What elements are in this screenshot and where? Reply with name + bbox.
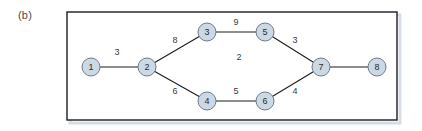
graph-node-2[interactable]: 2 xyxy=(138,58,156,76)
edge-weight-2-3: 8 xyxy=(172,35,177,45)
graph-node-4[interactable]: 4 xyxy=(198,92,216,110)
graph-node-1[interactable]: 1 xyxy=(82,58,100,76)
edge-weight-4-6: 5 xyxy=(233,86,238,96)
frame-rect xyxy=(67,12,397,120)
node-label: 1 xyxy=(88,62,93,72)
figure-frame xyxy=(67,12,397,120)
edge-weight-3-5: 9 xyxy=(233,17,238,27)
node-label: 8 xyxy=(374,62,379,72)
graph-node-8[interactable]: 8 xyxy=(368,58,386,76)
edge-weight-6-7: 4 xyxy=(292,86,297,96)
node-label: 3 xyxy=(204,27,209,37)
edge-weight-2-4: 6 xyxy=(172,86,177,96)
graph-annotation: 2 xyxy=(236,52,241,62)
edge-weight-5-7: 3 xyxy=(292,35,297,45)
edge-weight-1-2: 3 xyxy=(114,47,119,57)
node-label: 7 xyxy=(318,62,323,72)
node-label: 5 xyxy=(262,27,267,37)
graph-node-6[interactable]: 6 xyxy=(256,92,274,110)
graph-diagram: 2 12345678 3869534 xyxy=(0,0,422,131)
node-label: 2 xyxy=(144,62,149,72)
graph-node-3[interactable]: 3 xyxy=(198,23,216,41)
graph-annotations: 2 xyxy=(236,52,241,62)
graph-node-7[interactable]: 7 xyxy=(312,58,330,76)
node-label: 6 xyxy=(262,96,267,106)
figure-panel-b: (b) 2 12345678 3869534 xyxy=(0,0,422,131)
graph-node-5[interactable]: 5 xyxy=(256,23,274,41)
node-label: 4 xyxy=(204,96,209,106)
